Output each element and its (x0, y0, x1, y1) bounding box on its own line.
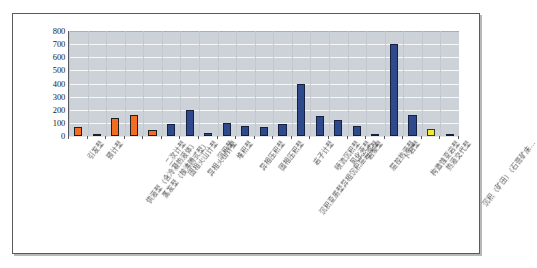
x-tick (161, 136, 162, 139)
y-tick-label: 400 (21, 80, 65, 89)
x-axis-labels: 引发型预计型供液型（含冷凝热液体）蒸发型（核沸腾式型）二次计型固相火山计型异相火… (13, 140, 479, 252)
x-tick (68, 136, 69, 139)
bar[interactable] (390, 44, 398, 136)
x-tick (105, 136, 106, 139)
bars-layer (69, 31, 459, 136)
x-tick (347, 136, 348, 139)
x-tick (458, 136, 459, 139)
bar[interactable] (223, 123, 231, 136)
bar[interactable] (353, 126, 361, 136)
x-axis-label: 引发型 (87, 140, 106, 161)
x-axis-label: 堆积型 (236, 140, 255, 161)
x-tick (291, 136, 292, 139)
x-tick (142, 136, 143, 139)
bar[interactable] (408, 115, 416, 136)
x-tick (235, 136, 236, 139)
bar[interactable] (130, 115, 138, 136)
bar[interactable] (334, 120, 342, 136)
bar[interactable] (297, 84, 305, 137)
bar[interactable] (111, 118, 119, 136)
x-tick (402, 136, 403, 139)
bar-chart[interactable]: 8007006005004003002001000 引发型预计型供液型（含冷凝热… (13, 14, 479, 253)
bar[interactable] (186, 110, 194, 136)
x-tick (439, 136, 440, 139)
x-axis-label: 沉积（矿田）（石膏矿床… (482, 140, 537, 208)
y-tick-label: 100 (21, 119, 65, 128)
x-tick (124, 136, 125, 139)
y-axis: 8007006005004003002001000 (21, 31, 65, 135)
y-tick-label: 700 (21, 40, 65, 49)
x-tick (87, 136, 88, 139)
x-tick (272, 136, 273, 139)
plot-area (68, 31, 459, 137)
bar[interactable] (74, 127, 82, 136)
x-tick (421, 136, 422, 139)
document-page-frame: 8007006005004003002001000 引发型预计型供液型（含冷凝热… (12, 13, 480, 254)
y-tick-label: 200 (21, 106, 65, 115)
x-tick (198, 136, 199, 139)
x-tick (179, 136, 180, 139)
bar[interactable] (241, 126, 249, 136)
y-tick-label: 600 (21, 53, 65, 62)
x-tick (217, 136, 218, 139)
bar[interactable] (260, 127, 268, 136)
x-axis-label: 预计型 (106, 140, 125, 161)
x-tick (309, 136, 310, 139)
bar[interactable] (167, 124, 175, 136)
y-tick-label: 500 (21, 66, 65, 75)
y-tick-label: 800 (21, 27, 65, 36)
x-tick (384, 136, 385, 139)
x-tick (254, 136, 255, 139)
bar[interactable] (278, 124, 286, 136)
x-axis-label: 岩子计型 (313, 140, 336, 167)
bar[interactable] (316, 116, 324, 136)
y-tick-label: 300 (21, 93, 65, 102)
